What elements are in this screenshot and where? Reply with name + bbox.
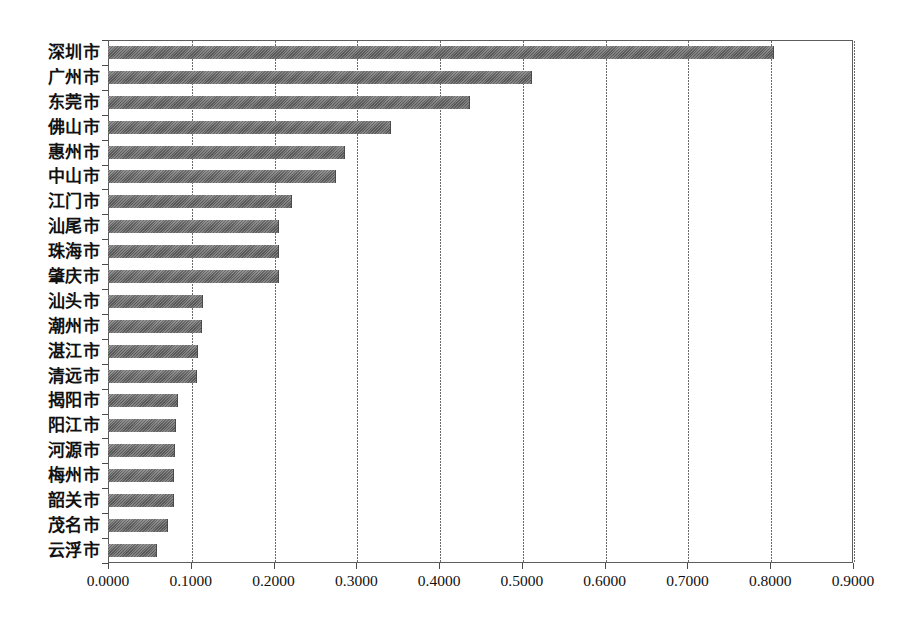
x-axis-tick	[108, 563, 109, 569]
bar-row	[108, 65, 853, 90]
y-axis-label: 肇庆市	[0, 264, 100, 289]
y-axis-label: 深圳市	[0, 40, 100, 65]
y-axis-label: 东莞市	[0, 90, 100, 115]
bars-layer	[108, 40, 853, 563]
x-axis-label: 0.9000	[808, 572, 898, 590]
bar	[108, 220, 279, 233]
y-axis-label: 茂名市	[0, 513, 100, 538]
y-axis-label: 河源市	[0, 438, 100, 463]
bar	[108, 96, 470, 109]
y-axis-category-labels: 深圳市广州市东莞市佛山市惠州市中山市江门市汕尾市珠海市肇庆市汕头市潮州市湛江市清…	[0, 40, 100, 563]
bar-chart: 深圳市广州市东莞市佛山市惠州市中山市江门市汕尾市珠海市肇庆市汕头市潮州市湛江市清…	[0, 0, 909, 629]
x-axis-tick	[439, 563, 440, 569]
bar-row	[108, 314, 853, 339]
bar-row	[108, 463, 853, 488]
bar	[108, 345, 198, 358]
y-axis-label: 佛山市	[0, 115, 100, 140]
bar	[108, 295, 203, 308]
bar	[108, 544, 157, 557]
bar-row	[108, 189, 853, 214]
bar	[108, 146, 345, 159]
x-axis-tick	[605, 563, 606, 569]
bar	[108, 444, 175, 457]
x-axis-tick	[356, 563, 357, 569]
y-axis-label: 中山市	[0, 164, 100, 189]
bar-row	[108, 388, 853, 413]
bar-row	[108, 413, 853, 438]
x-axis-tick	[191, 563, 192, 569]
bar-row	[108, 339, 853, 364]
x-axis-label: 0.1000	[146, 572, 236, 590]
x-axis-label: 0.0000	[63, 572, 153, 590]
x-axis-tick	[770, 563, 771, 569]
bar-row	[108, 40, 853, 65]
y-axis-label: 广州市	[0, 65, 100, 90]
x-axis-tick	[687, 563, 688, 569]
bar	[108, 170, 336, 183]
y-axis-label: 汕尾市	[0, 214, 100, 239]
bar	[108, 71, 532, 84]
bar-row	[108, 239, 853, 264]
bar-row	[108, 488, 853, 513]
bar	[108, 270, 279, 283]
bar-row	[108, 264, 853, 289]
bar	[108, 121, 391, 134]
y-axis-label: 阳江市	[0, 413, 100, 438]
bar-row	[108, 513, 853, 538]
bar	[108, 394, 178, 407]
bar-row	[108, 90, 853, 115]
bar	[108, 370, 197, 383]
bar	[108, 519, 168, 532]
bar-row	[108, 115, 853, 140]
x-axis-label: 0.5000	[477, 572, 567, 590]
bar-row	[108, 538, 853, 563]
bar-row	[108, 140, 853, 165]
y-axis-label: 珠海市	[0, 239, 100, 264]
bar-row	[108, 438, 853, 463]
x-axis-label: 0.7000	[642, 572, 732, 590]
y-axis-label: 湛江市	[0, 339, 100, 364]
bar-row	[108, 214, 853, 239]
bar-row	[108, 364, 853, 389]
y-axis-label: 清远市	[0, 364, 100, 389]
y-axis-label: 云浮市	[0, 538, 100, 563]
y-axis-label: 惠州市	[0, 140, 100, 165]
y-axis-label: 江门市	[0, 189, 100, 214]
y-axis-label: 汕头市	[0, 289, 100, 314]
bar	[108, 320, 202, 333]
x-axis-tick	[274, 563, 275, 569]
x-axis-tick	[853, 563, 854, 569]
y-axis-label: 揭阳市	[0, 388, 100, 413]
bar	[108, 245, 279, 258]
x-axis-label: 0.6000	[560, 572, 650, 590]
y-axis-label: 潮州市	[0, 314, 100, 339]
bar	[108, 46, 774, 59]
x-axis-tick	[522, 563, 523, 569]
bar-row	[108, 164, 853, 189]
x-axis-label: 0.2000	[229, 572, 319, 590]
bar	[108, 494, 174, 507]
x-axis-label: 0.8000	[725, 572, 815, 590]
bar	[108, 469, 174, 482]
y-axis-label: 韶关市	[0, 488, 100, 513]
x-axis-label: 0.4000	[394, 572, 484, 590]
y-axis-label: 梅州市	[0, 463, 100, 488]
gridline	[854, 41, 855, 562]
bar	[108, 195, 292, 208]
x-axis-label: 0.3000	[311, 572, 401, 590]
bar-row	[108, 289, 853, 314]
bar	[108, 419, 176, 432]
